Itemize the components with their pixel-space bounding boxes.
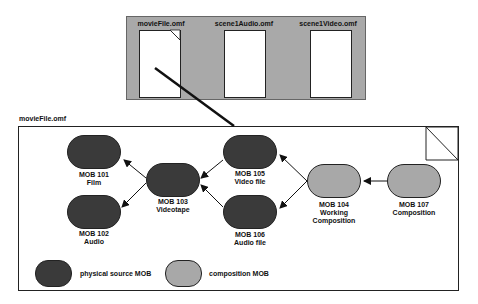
zoom-connector-line [155,68,234,126]
mob-101-node[interactable] [67,135,121,169]
mob-106-node[interactable] [223,195,277,229]
mob-105-node[interactable] [223,135,277,169]
legend-composition-swatch [165,260,202,287]
mob-105-label: MOB 105Video file [210,170,290,186]
legend-physical-swatch [35,260,72,287]
mob-107-label: MOB 107Composition [374,201,454,217]
legend-physical-label: physical source MOB [80,270,151,277]
mob-103-node[interactable] [146,163,200,197]
mob-103-label: MOB 103Videotape [133,198,213,214]
mob-107-node[interactable] [387,164,441,198]
dog-ear-small-icon [170,30,180,40]
mob-104-label: MOB 104WorkingComposition [294,201,374,225]
mob-101-label: MOB 101Film [54,171,134,187]
mob-102-label: MOB 102Audio [54,230,134,246]
dog-ear-large-icon [426,127,458,160]
mob-104-node[interactable] [307,164,361,198]
mob-102-node[interactable] [67,195,121,229]
legend-composition-label: composition MOB [209,270,269,277]
mob-106-label: MOB 106Audio file [210,231,290,247]
